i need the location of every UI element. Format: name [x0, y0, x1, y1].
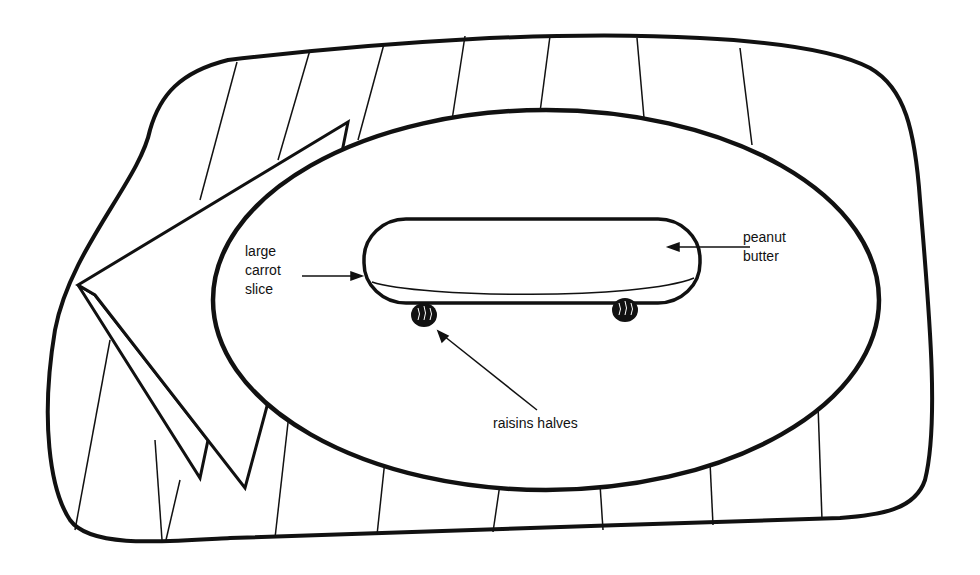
drawing	[0, 0, 980, 575]
label-raisin-halves: raisins halves	[493, 414, 578, 433]
label-carrot-slice: large carrot slice	[245, 242, 281, 299]
label-peanut-butter: peanut butter	[743, 228, 786, 266]
carrot-slice-deck	[364, 219, 700, 303]
illustration: large carrot slice peanut butter raisins…	[0, 0, 980, 575]
